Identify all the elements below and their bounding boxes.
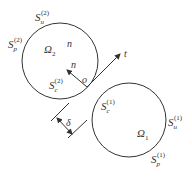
gap-boundary-line-2 [68, 120, 87, 138]
s-c-1-label: Sc(1) [101, 98, 115, 115]
s-u-1-label: Su(1) [168, 114, 183, 131]
body-2-n-label: n [67, 38, 72, 49]
s-p-1-label: Sp(1) [151, 151, 166, 168]
body-2-boundary [22, 23, 98, 99]
origin-label: o [82, 74, 87, 85]
s-u-2-label: Su(2) [35, 9, 50, 26]
body-1-boundary [92, 83, 166, 157]
tangent-arrow-label: t [124, 48, 127, 59]
s-c-2-label: Sc(2) [49, 77, 63, 94]
normal-arrow-label: n [71, 59, 76, 70]
s-p-2-label: Sp(2) [8, 36, 23, 53]
gap-delta-label: δ [66, 117, 71, 128]
omega-2-label: Ω2 [44, 43, 56, 58]
omega-1-label: Ω1 [137, 127, 149, 142]
contact-diagram: Su(2) Sp(2) Ω2 n Sc(2) n o t δ Sc(1) Ω1 … [0, 0, 192, 182]
tangent-arrow [87, 54, 120, 87]
